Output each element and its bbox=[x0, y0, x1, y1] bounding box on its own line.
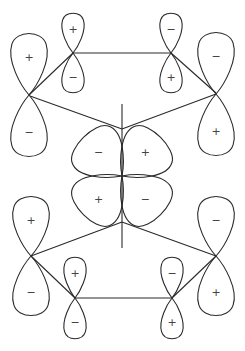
plus-sign: + bbox=[68, 23, 77, 36]
plus-sign: + bbox=[211, 125, 220, 138]
minus-sign: − bbox=[166, 23, 175, 36]
minus-sign: − bbox=[94, 146, 103, 159]
minus-sign: − bbox=[26, 286, 35, 299]
minus-sign: − bbox=[141, 193, 150, 206]
minus-sign: − bbox=[70, 316, 79, 329]
minus-sign: − bbox=[167, 267, 176, 280]
minus-sign: − bbox=[68, 71, 77, 84]
plus-sign: + bbox=[70, 267, 79, 280]
plus-sign: + bbox=[211, 286, 220, 299]
plus-sign: + bbox=[141, 146, 150, 159]
plus-sign: + bbox=[26, 214, 35, 227]
molecular-orbital-diagram: −++− +−+−−+−++−+−−+−+ bbox=[0, 0, 245, 351]
plus-sign: + bbox=[94, 193, 103, 206]
minus-sign: − bbox=[24, 126, 33, 139]
minus-sign: − bbox=[211, 50, 220, 63]
plus-sign: + bbox=[166, 71, 175, 84]
plus-sign: + bbox=[24, 51, 33, 64]
minus-sign: − bbox=[211, 214, 220, 227]
plus-sign: + bbox=[167, 316, 176, 329]
